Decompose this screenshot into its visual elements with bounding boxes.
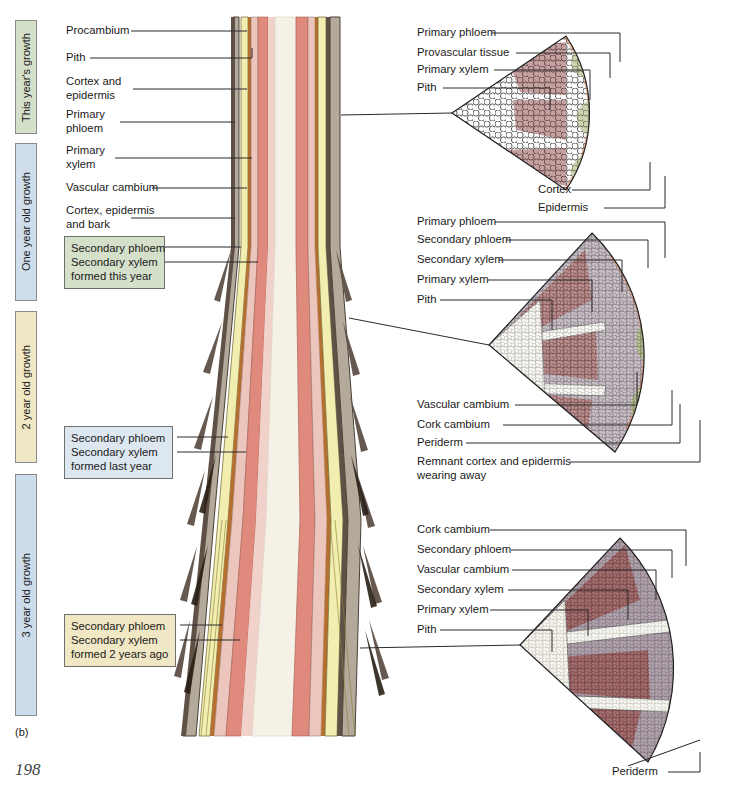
w2-label-vascular-cambium: Vascular cambium <box>417 398 509 412</box>
label-primary-xylem-stem: Primary xylem <box>66 144 105 171</box>
era-bar-label: 3 year old growth <box>21 553 32 637</box>
label-procambium: Procambium <box>66 24 129 38</box>
w2-label-primary-phloem: Primary phloem <box>417 215 496 229</box>
era-bar-label: This year's growth <box>21 33 32 122</box>
w1-label-primary-xylem: Primary xylem <box>417 63 489 77</box>
w1-label-pith: Pith <box>417 81 436 95</box>
label-cortex-and-epidermis: Cortex and epidermis <box>66 75 121 102</box>
callout-formed-two-years-ago: Secondary phloem Secondary xylem formed … <box>64 614 176 667</box>
label-pith-stem: Pith <box>66 51 85 65</box>
era-bar-three-year: 3 year old growth <box>15 474 37 716</box>
callout-formed-this-year: Secondary phloem Secondary xylem formed … <box>64 236 165 289</box>
w2-label-remnant-cortex: Remnant cortex and epidermis wearing awa… <box>417 455 571 482</box>
w1-label-primary-phloem: Primary phloem <box>417 26 496 40</box>
w3-label-periderm: Periderm <box>612 765 658 779</box>
w2-label-secondary-xylem: Secondary xylem <box>417 253 504 267</box>
era-bar-this-year: This year's growth <box>15 20 37 134</box>
w3-label-secondary-phloem: Secondary phloem <box>417 543 511 557</box>
label-primary-phloem-stem: Primary phloem <box>66 108 105 135</box>
w3-label-cork-cambium: Cork cambium <box>417 523 490 537</box>
w2-label-periderm: Periderm <box>417 436 463 450</box>
w3-label-vascular-cambium: Vascular cambium <box>417 563 509 577</box>
w1-label-cortex: Cortex <box>538 183 571 197</box>
era-bar-two-year: 2 year old growth <box>15 311 37 463</box>
w3-label-primary-xylem: Primary xylem <box>417 603 489 617</box>
label-vascular-cambium-stem: Vascular cambium <box>66 181 158 195</box>
stem-column <box>174 17 389 736</box>
wedge-one-year-graphic <box>470 225 720 465</box>
figure-part-marker: (b) <box>15 726 28 738</box>
w2-label-pith: Pith <box>417 293 436 307</box>
era-bar-label: One year old growth <box>21 172 32 271</box>
page-number: 198 <box>15 760 41 780</box>
wedge-three-year-graphic <box>500 530 751 780</box>
w2-label-cork-cambium: Cork cambium <box>417 418 490 432</box>
w2-label-secondary-phloem: Secondary phloem <box>417 233 511 247</box>
era-bar-one-year: One year old growth <box>15 143 37 301</box>
figure-secondary-growth: This year's growth One year old growth 2… <box>0 0 751 794</box>
w3-label-pith: Pith <box>417 623 436 637</box>
era-bar-label: 2 year old growth <box>21 345 32 429</box>
w1-label-epidermis: Epidermis <box>538 201 588 215</box>
w2-label-primary-xylem: Primary xylem <box>417 273 489 287</box>
diagram-canvas <box>0 0 751 794</box>
label-cortex-epidermis-bark: Cortex, epidermis and bark <box>66 204 155 231</box>
callout-formed-last-year: Secondary phloem Secondary xylem formed … <box>64 426 173 479</box>
w3-label-secondary-xylem: Secondary xylem <box>417 583 504 597</box>
w1-label-provascular-tissue: Provascular tissue <box>417 46 509 60</box>
